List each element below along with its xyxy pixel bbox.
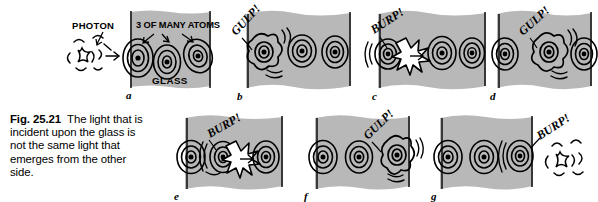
figure-25-21: Fig. 25.21 The light that is incident up… <box>0 0 598 202</box>
panel-letter-g: g <box>431 190 437 202</box>
atom-1-f <box>309 141 337 174</box>
figure-caption: Fig. 25.21 The light that is incident up… <box>10 113 150 179</box>
atoms-label: 3 OF MANY ATOMS <box>136 20 220 30</box>
atom-3-d <box>571 38 597 70</box>
panel-letter-a: a <box>126 89 132 101</box>
atom-2-c <box>428 37 456 70</box>
panel-d: GULP! <box>488 6 598 98</box>
vibration-marks-c <box>365 42 372 67</box>
panel-a: PHOTON 3 OF MANY ATOMS <box>48 6 220 98</box>
atom-2-f <box>346 141 373 173</box>
atom-3-b <box>322 36 348 68</box>
panel-letter-b: b <box>237 90 243 102</box>
figure-number: Fig. 25.21 <box>10 113 61 125</box>
photon-outgoing-g <box>546 140 584 176</box>
atom-3-e <box>253 141 279 173</box>
atom-1-d <box>492 38 518 70</box>
panel-letter-e: e <box>174 190 179 202</box>
photon-incoming-a <box>68 36 120 71</box>
atom-2-g <box>470 141 498 174</box>
panel-f: GULP! <box>300 110 425 200</box>
panel-letter-d: d <box>490 90 496 102</box>
photon-pointer-a <box>96 32 103 45</box>
glass-label: GLASS <box>152 75 188 86</box>
panel-b: GULP! <box>222 6 362 98</box>
panel-letter-c: c <box>372 90 377 102</box>
panel-e: BURP! <box>160 110 295 200</box>
photon-label: PHOTON <box>72 20 114 31</box>
panel-c: BURP! <box>358 6 500 98</box>
panel-letter-f: f <box>304 190 308 202</box>
atom-2-a <box>154 45 181 79</box>
panel-g: BURP! g <box>428 110 598 200</box>
atom-1-g <box>434 141 462 174</box>
atom-3-c <box>460 38 485 68</box>
atom-2-b <box>288 35 316 67</box>
atom-1-a <box>123 39 153 77</box>
